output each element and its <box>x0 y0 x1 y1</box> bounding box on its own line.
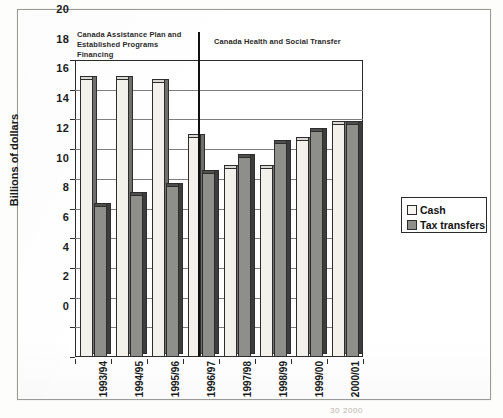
bar-side-face <box>359 121 363 354</box>
bar-cash <box>80 79 93 357</box>
bar-side-face <box>143 192 147 354</box>
bar-side-face <box>251 154 255 354</box>
annotation-era-left-line1: Canada Assistance Plan and <box>77 30 195 40</box>
y-axis-tick-label: 2 <box>35 271 69 282</box>
bar-front-face <box>260 168 273 357</box>
era-divider-line <box>198 32 200 357</box>
x-axis-tick <box>183 359 184 364</box>
legend-label: Tax transfers <box>420 219 485 231</box>
bar-front-face <box>310 131 323 357</box>
bar-cash <box>224 168 237 357</box>
y-axis-tick-label: 10 <box>35 153 69 164</box>
x-axis-tick-label: 1993/94 <box>98 361 109 397</box>
bar-front-face <box>116 79 129 357</box>
y-axis-tick-label: 20 <box>35 4 69 15</box>
bar-front-face <box>332 124 345 357</box>
bar-tax-transfers <box>130 195 143 357</box>
legend-item-tax: Tax transfers <box>407 217 486 232</box>
x-axis-tick-label: 1994/95 <box>134 361 145 397</box>
bar-front-face <box>80 79 93 357</box>
bar-group <box>255 60 291 357</box>
bar-front-face <box>224 168 237 357</box>
bar-front-face <box>202 173 215 357</box>
x-axis-tick-label: 1999/00 <box>314 361 325 397</box>
bar-front-face <box>166 186 179 357</box>
y-axis-tick-label: 18 <box>35 34 69 45</box>
bar-tax-transfers <box>238 157 251 357</box>
y-axis-tick <box>70 357 75 358</box>
bar-cash <box>296 140 309 357</box>
x-axis-tick-label: 1998/99 <box>278 361 289 397</box>
bar-tax-transfers <box>274 143 287 357</box>
x-axis-tick <box>147 359 148 364</box>
bar-side-face <box>179 183 183 354</box>
bar-side-face <box>215 170 219 354</box>
bar-side-face <box>107 203 111 354</box>
x-axis-tick-label: 1995/96 <box>170 361 181 397</box>
bar-front-face <box>296 140 309 357</box>
bar-tax-transfers <box>166 186 179 357</box>
annotation-era-right: Canada Health and Social Transfer <box>214 37 364 47</box>
bar-group <box>327 60 363 357</box>
x-axis-tick <box>75 359 76 364</box>
bar-tax-transfers <box>310 131 323 357</box>
bar-tax-transfers <box>94 206 107 357</box>
legend-label: Cash <box>420 204 446 216</box>
x-axis-tick <box>111 359 112 364</box>
bar-cash <box>152 82 165 357</box>
x-axis-tick <box>327 359 328 364</box>
plot-area <box>75 60 363 357</box>
bar-front-face <box>274 143 287 357</box>
x-axis-tick-label: 1997/98 <box>242 361 253 397</box>
legend-swatch-cash <box>407 205 417 215</box>
bar-cash <box>116 79 129 357</box>
bar-front-face <box>346 124 359 357</box>
bar-group <box>111 60 147 357</box>
bar-tax-transfers <box>202 173 215 357</box>
x-axis-tick-label: 2000/01 <box>350 361 361 397</box>
x-axis-tick <box>291 359 292 364</box>
annotation-era-left: Canada Assistance Plan and Established P… <box>77 30 195 60</box>
y-axis-tick-label: 4 <box>35 242 69 253</box>
bar-side-face <box>287 140 291 354</box>
bar-front-face <box>94 206 107 357</box>
x-axis-tick-label: 1996/97 <box>206 361 217 397</box>
bar-cash <box>332 124 345 357</box>
bar-front-face <box>130 195 143 357</box>
bar-group <box>291 60 327 357</box>
bar-front-face <box>238 157 251 357</box>
y-axis-tick-label: 16 <box>35 63 69 74</box>
bar-group <box>219 60 255 357</box>
legend: CashTax transfers <box>401 197 487 233</box>
y-axis-labels: 02468101214161820 <box>35 10 69 307</box>
bar-cash <box>260 168 273 357</box>
x-axis-tick <box>255 359 256 364</box>
x-axis-tick <box>219 359 220 364</box>
bar-side-face <box>323 128 327 354</box>
bar-group <box>75 60 111 357</box>
y-axis-tick-label: 12 <box>35 123 69 134</box>
bar-tax-transfers <box>346 124 359 357</box>
x-axis-labels: 1993/941994/951995/961996/971997/981998/… <box>75 359 363 409</box>
y-axis-title: Billions of dollars <box>8 114 20 206</box>
bar-group <box>183 60 219 357</box>
y-axis-tick-label: 14 <box>35 93 69 104</box>
legend-swatch-tax <box>407 220 417 230</box>
x-axis-tick <box>363 359 364 364</box>
bar-front-face <box>152 82 165 357</box>
annotation-era-left-line2: Established Programs Financing <box>77 40 195 60</box>
y-axis-tick-label: 6 <box>35 212 69 223</box>
y-axis-tick-label: 0 <box>35 301 69 312</box>
source-note: 30 2000 <box>330 406 363 415</box>
legend-item-cash: Cash <box>407 202 486 217</box>
y-axis-tick-label: 8 <box>35 182 69 193</box>
bar-group <box>147 60 183 357</box>
scanned-page-frame: Canada Assistance Plan and Established P… <box>17 9 491 400</box>
